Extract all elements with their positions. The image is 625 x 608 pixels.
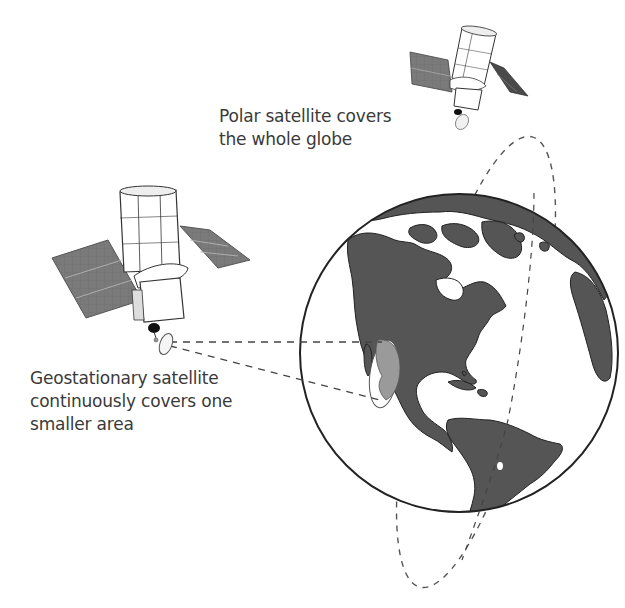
geostationary-satellite-caption: Geostationary satellite continuously cov… <box>30 367 232 436</box>
polar-caption-line-2: the whole globe <box>219 128 391 151</box>
lake-spot <box>497 462 503 470</box>
globe <box>300 190 618 526</box>
satellite-dish-icon <box>453 112 471 132</box>
geostationary-satellite <box>52 186 250 356</box>
geo-caption-line-2: continuously covers one <box>30 390 232 413</box>
polar-satellite-caption: Polar satellite covers the whole globe <box>219 105 391 151</box>
geo-caption-line-1: Geostationary satellite <box>30 367 232 390</box>
polar-satellite <box>410 24 528 132</box>
geo-caption-line-3: smaller area <box>30 413 232 436</box>
satellite-dish-icon <box>154 332 175 357</box>
satellite-coverage-diagram <box>0 0 625 608</box>
polar-caption-line-1: Polar satellite covers <box>219 105 391 128</box>
